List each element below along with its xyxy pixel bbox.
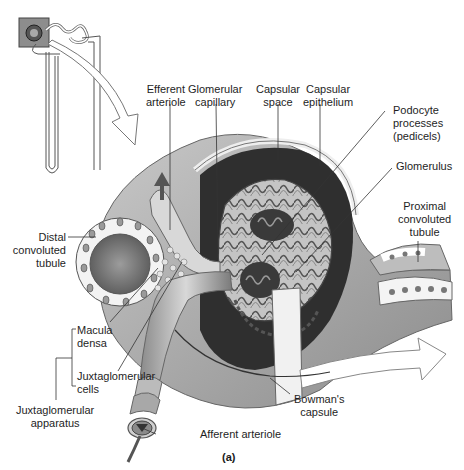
label-line: Glomerular [188, 83, 242, 96]
label-line: Capsular [303, 83, 353, 96]
label-line: Macula [77, 324, 112, 337]
label-line: capsule [294, 406, 344, 419]
label-capsular-space: Capsular space [256, 83, 300, 109]
label-line: space [256, 96, 300, 109]
label-line: tubule [398, 226, 451, 239]
label-line: Glomerulus [396, 160, 452, 173]
label-macula-densa: Macula densa [77, 324, 112, 350]
renal-corpuscle-illustration [0, 0, 464, 470]
label-line: convoluted [10, 244, 66, 257]
label-capsular-epithelium: Capsular epithelium [303, 83, 353, 109]
label-distal-convoluted-tubule: Distal convoluted tubule [10, 231, 66, 270]
main-illustration [76, 134, 452, 462]
label-afferent-arteriole: Afferent arteriole [200, 428, 281, 441]
figure-caption: (a) [222, 451, 235, 463]
label-line: Juxtaglomerular [77, 370, 155, 383]
label-line: arteriole [146, 96, 186, 109]
label-line: (pedicels) [393, 130, 443, 143]
label-bowmans-capsule: Bowman's capsule [294, 393, 344, 419]
label-juxtaglomerular-cells: Juxtaglomerular cells [77, 370, 155, 396]
label-glomerulus: Glomerulus [396, 160, 452, 173]
nephron-inset [19, 18, 138, 173]
label-efferent-arteriole: Efferent arteriole [146, 83, 186, 109]
distal-tubule [76, 218, 164, 306]
label-podocyte-processes: Podocyte processes (pedicels) [393, 104, 443, 143]
label-line: convoluted [398, 213, 451, 226]
label-proximal-convoluted-tubule: Proximal convoluted tubule [398, 200, 451, 239]
label-line: Juxtaglomerular [16, 404, 94, 417]
label-line: epithelium [303, 96, 353, 109]
label-line: Proximal [398, 200, 451, 213]
label-line: apparatus [16, 417, 94, 430]
label-line: Bowman's [294, 393, 344, 406]
label-line: Afferent arteriole [200, 428, 281, 441]
label-line: processes [393, 117, 443, 130]
label-line: Efferent [146, 83, 186, 96]
label-line: capillary [188, 96, 242, 109]
label-line: densa [77, 337, 112, 350]
label-line: Distal [10, 231, 66, 244]
label-line: Capsular [256, 83, 300, 96]
label-line: tubule [10, 257, 66, 270]
label-glomerular-capillary: Glomerular capillary [188, 83, 242, 109]
label-line: Podocyte [393, 104, 443, 117]
label-line: cells [77, 383, 155, 396]
label-juxtaglomerular-apparatus: Juxtaglomerular apparatus [16, 404, 94, 430]
